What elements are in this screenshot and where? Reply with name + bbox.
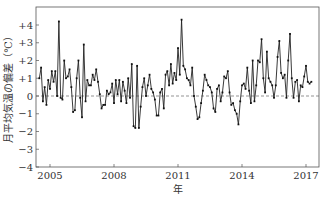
- data-point: [273, 97, 275, 99]
- data-point: [254, 100, 256, 102]
- data-point: [243, 83, 245, 85]
- y-tick-label: +2: [18, 55, 33, 66]
- data-point: [271, 84, 273, 86]
- data-point: [190, 84, 192, 86]
- data-point: [287, 60, 289, 62]
- data-point: [42, 100, 44, 102]
- data-point: [184, 68, 186, 70]
- y-tick-label: −1: [18, 108, 33, 119]
- data-point: [241, 84, 243, 86]
- data-point: [225, 77, 227, 79]
- data-point: [85, 100, 87, 102]
- data-point: [172, 83, 174, 85]
- data-point: [211, 92, 213, 94]
- data-point: [124, 90, 126, 92]
- data-point: [136, 65, 138, 67]
- data-point: [232, 102, 234, 104]
- data-point: [149, 74, 151, 76]
- data-point: [266, 51, 268, 53]
- data-point: [229, 92, 231, 94]
- data-point: [49, 88, 51, 90]
- data-point: [202, 90, 204, 92]
- data-point: [56, 95, 58, 97]
- data-point: [47, 79, 49, 81]
- data-point: [70, 86, 72, 88]
- data-point: [198, 116, 200, 118]
- y-axis-title: 月平均気温の偏差（℃）: [2, 31, 14, 142]
- data-point: [218, 84, 220, 86]
- data-point: [120, 100, 122, 102]
- data-point: [79, 97, 81, 99]
- data-point: [158, 115, 160, 117]
- data-point: [280, 72, 282, 74]
- data-point: [200, 102, 202, 104]
- data-point: [230, 104, 232, 106]
- data-point: [74, 109, 76, 111]
- data-point: [239, 100, 241, 102]
- data-point: [53, 81, 55, 83]
- data-point: [65, 77, 67, 79]
- data-point: [154, 99, 156, 101]
- data-point: [303, 76, 305, 78]
- data-point: [67, 76, 69, 78]
- data-point: [81, 116, 83, 118]
- data-point: [46, 104, 48, 106]
- data-point: [140, 106, 142, 108]
- data-point: [126, 102, 128, 104]
- data-point: [134, 127, 136, 129]
- data-point: [236, 113, 238, 115]
- data-point: [51, 70, 53, 72]
- data-point: [156, 115, 158, 117]
- data-point: [108, 93, 110, 95]
- data-point: [62, 99, 64, 101]
- data-point: [99, 93, 101, 95]
- data-point: [145, 95, 147, 97]
- data-point: [72, 111, 74, 113]
- data-point: [95, 68, 97, 70]
- data-point: [40, 67, 42, 69]
- x-axis-title: 年: [173, 183, 183, 195]
- data-point: [118, 79, 120, 81]
- plot-area: [36, 7, 319, 167]
- data-point: [129, 97, 131, 99]
- data-point: [278, 40, 280, 42]
- data-point: [117, 93, 119, 95]
- data-point: [111, 83, 113, 85]
- data-point: [138, 127, 140, 129]
- data-point: [250, 102, 252, 104]
- data-point: [213, 108, 215, 110]
- data-point: [44, 86, 46, 88]
- data-point: [223, 76, 225, 78]
- x-tick-label: 2008: [101, 170, 126, 181]
- data-point: [309, 83, 311, 85]
- data-point: [122, 81, 124, 83]
- data-point: [106, 90, 108, 92]
- data-point: [298, 100, 300, 102]
- data-point: [252, 60, 254, 62]
- y-tick-label: −2: [18, 126, 33, 137]
- data-point: [83, 44, 85, 46]
- data-point: [54, 70, 56, 72]
- data-point: [197, 118, 199, 120]
- x-tick-label: 2017: [293, 170, 318, 181]
- data-point: [38, 77, 40, 79]
- data-point: [261, 38, 263, 40]
- data-point: [163, 108, 165, 110]
- data-point: [257, 60, 259, 62]
- data-point: [88, 84, 90, 86]
- data-point: [220, 100, 222, 102]
- data-point: [214, 111, 216, 113]
- data-point: [94, 79, 96, 81]
- data-point: [216, 88, 218, 90]
- data-point: [78, 60, 80, 62]
- data-point: [150, 88, 152, 90]
- data-point: [259, 61, 261, 63]
- data-point: [170, 63, 172, 65]
- data-point: [193, 95, 195, 97]
- data-point: [310, 81, 312, 83]
- data-point: [270, 81, 272, 83]
- data-point: [293, 97, 295, 99]
- data-point: [179, 74, 181, 76]
- data-point: [246, 67, 248, 69]
- data-point: [284, 74, 286, 76]
